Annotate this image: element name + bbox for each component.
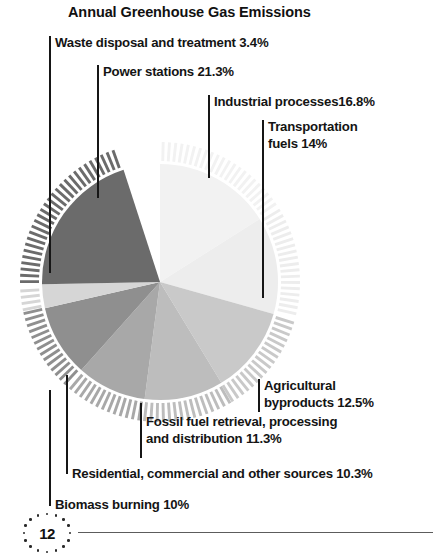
badge-dot [67, 539, 70, 542]
pie-tick [21, 269, 40, 271]
pie-tick [275, 239, 293, 245]
leader-line-residential [66, 375, 68, 474]
pie-tick [22, 301, 41, 304]
pie-tick [114, 396, 120, 414]
label-power-stations: Power stations 21.3% [103, 64, 403, 81]
leader-line-biomass [49, 390, 51, 506]
page-number-badge: 12 [18, 510, 76, 556]
pie-tick [281, 276, 300, 277]
pie-tick [113, 150, 119, 168]
pie-tick [200, 150, 206, 168]
pie-tick [27, 320, 45, 326]
pie-tick [132, 401, 136, 420]
pie-tick [20, 275, 39, 276]
pie-tick [279, 257, 298, 260]
pie-tick [25, 244, 43, 249]
pie-tick [274, 323, 292, 329]
pie-slices [42, 164, 278, 400]
label-industrial-processes: Industrial processes16.8% [214, 94, 433, 111]
pie-tick [21, 295, 40, 297]
badge-dot [62, 518, 65, 521]
badge-dot [55, 514, 58, 517]
pie-tick [190, 146, 195, 164]
pie-tick [276, 318, 294, 324]
badge-dot [29, 545, 32, 548]
pie-tick [25, 315, 43, 320]
badge-dot [55, 549, 58, 552]
pie-tick [278, 251, 297, 255]
pie-tick [279, 304, 298, 307]
pie-tick [278, 310, 297, 314]
page-number: 12 [18, 510, 76, 556]
badge-dot [24, 539, 27, 542]
pie-tick [20, 290, 39, 291]
label-transportation-fuels: Transportation fuels 14% [268, 119, 428, 152]
pie-tick [168, 142, 169, 161]
pie-tick [277, 245, 295, 250]
pie-slice [42, 170, 160, 285]
pie-tick [179, 144, 182, 163]
pie-tick [195, 148, 201, 166]
pie-tick [22, 256, 41, 259]
leader-line-industrial [208, 95, 210, 178]
label-biomass-burning: Biomass burning 10% [55, 497, 335, 514]
pie-tick [126, 399, 131, 417]
pie-tick [201, 396, 207, 414]
badge-dot [62, 545, 65, 548]
pie-tick [280, 263, 299, 266]
pie-tick [27, 238, 45, 244]
pie-tick [185, 145, 189, 164]
pie-tick [120, 398, 125, 416]
leader-line-power [97, 65, 99, 198]
pie-tick [280, 299, 299, 302]
label-residential-sources: Residential, commercial and other source… [72, 466, 432, 483]
pie-tick [174, 143, 176, 162]
pie-tick [281, 288, 300, 289]
pie-tick [21, 263, 40, 266]
pie-tick [24, 250, 43, 254]
pie-tick [280, 293, 299, 295]
footer-rule [78, 532, 433, 533]
label-waste-disposal: Waste disposal and treatment 3.4% [55, 35, 385, 52]
badge-dot [67, 524, 70, 527]
leader-line-transportation [262, 120, 264, 298]
leader-line-waste [49, 36, 51, 273]
page-canvas: Annual Greenhouse Gas Emissions Waste di… [0, 0, 433, 557]
badge-dot [29, 518, 32, 521]
label-agricultural-byproducts: Agricultural byproducts 12.5% [264, 378, 433, 411]
pie-tick [281, 270, 300, 272]
leader-line-fossil [140, 403, 142, 458]
leader-line-agricultural [258, 379, 260, 412]
label-fossil-fuel: Fossil fuel retrieval, processing and di… [146, 414, 426, 447]
